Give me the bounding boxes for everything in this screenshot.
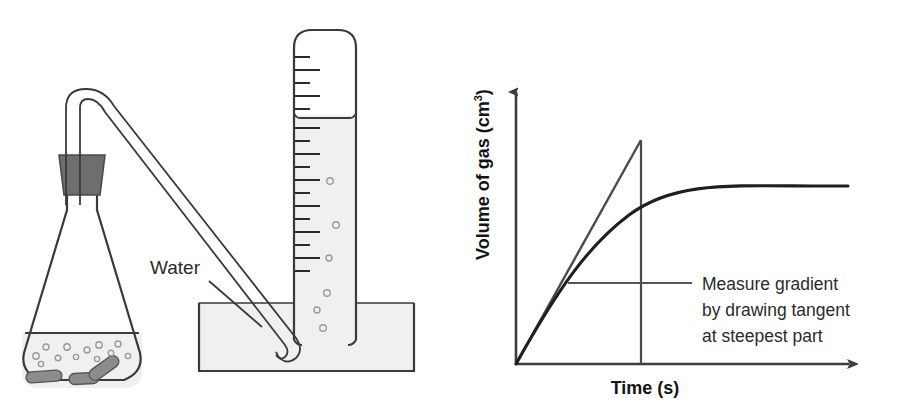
chart-axes [516, 92, 849, 364]
y-axis-label-base: Volume of gas (cm [473, 101, 493, 260]
annotation-line-2: by drawing tangent [702, 300, 850, 320]
x-axis-label: Time (s) [611, 378, 680, 398]
annotation-line-1: Measure gradient [702, 274, 838, 294]
conical-flask [22, 155, 142, 388]
y-axis-label-tail: ) [473, 89, 493, 95]
gradient-annotation: Measure gradient by drawing tangent at s… [702, 274, 850, 346]
figure-root: Water Measure gradient b [0, 0, 898, 416]
y-axis-label: Volume of gas (cm3) [472, 89, 493, 260]
rate-of-reaction-graph: Measure gradient by drawing tangent at s… [449, 0, 898, 416]
y-axis-label-group: Volume of gas (cm3) [472, 89, 493, 260]
water-label: Water [150, 257, 201, 278]
apparatus-diagram: Water [0, 0, 449, 416]
measuring-cylinder [294, 30, 356, 345]
annotation-line-3: at steepest part [702, 326, 823, 346]
